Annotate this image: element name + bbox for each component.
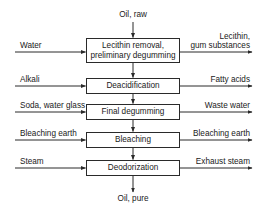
step-box-bleaching: Bleaching [86, 132, 180, 148]
step-label: Lecithin removal, preliminary degumming [90, 41, 175, 61]
step-output-exhaust-steam: Exhaust steam [196, 157, 250, 166]
pure-oil-output-label: Oil, pure [118, 194, 149, 203]
step-output-waste-water: Waste water [205, 101, 250, 110]
step-input-soda-water-glass: Soda, water glass [20, 101, 85, 110]
step-input-bleaching-earth: Bleaching earth [20, 129, 77, 138]
step-box-deodorization: Deodorization [86, 160, 180, 176]
step-box-final-degumming: Final degumming [86, 104, 180, 120]
step-output-bleaching-earth: Bleaching earth [193, 129, 250, 138]
raw-oil-input-label: Oil, raw [119, 10, 147, 19]
step-label: Deodorization [108, 163, 159, 173]
step-input-water: Water [20, 41, 42, 50]
step-output-lecithin: Lecithin, gum substances [190, 32, 250, 50]
step-label: Deacidification [106, 81, 159, 91]
step-label: Bleaching [115, 135, 151, 145]
step-output-fatty-acids: Fatty acids [210, 75, 250, 84]
step-box-lecithin-removal: Lecithin removal, preliminary degumming [86, 38, 180, 63]
process-flow-diagram: Oil, raw Lecithin removal, preliminary d… [0, 0, 265, 215]
step-box-deacidification: Deacidification [86, 78, 180, 94]
step-input-steam: Steam [20, 157, 44, 166]
step-label: Final degumming [102, 107, 165, 117]
step-input-alkali: Alkali [20, 75, 40, 84]
